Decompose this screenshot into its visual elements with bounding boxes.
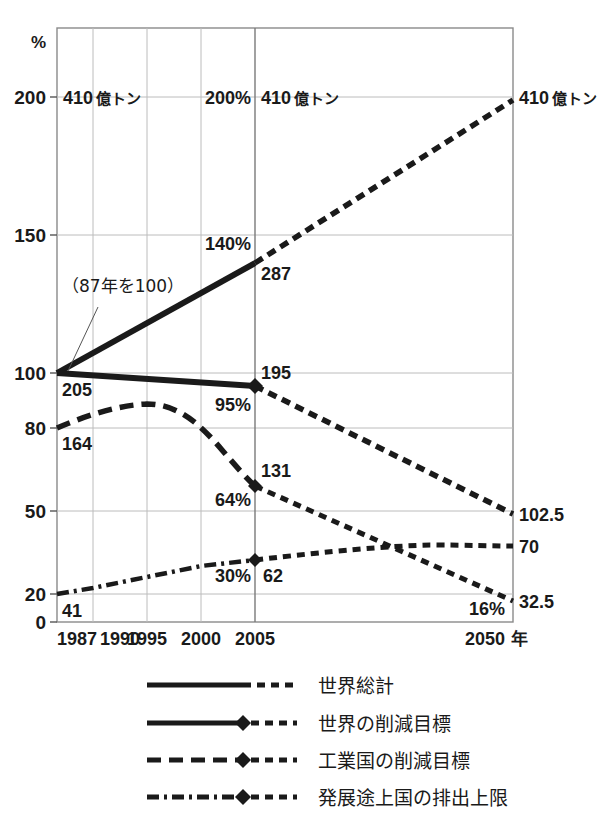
tonnage-right-value: 410	[519, 88, 549, 108]
tonnage-right-unit: 億トン	[552, 90, 597, 107]
legend-marker-world-target	[235, 715, 251, 731]
value-label-70: 70	[519, 537, 539, 557]
tonnage-mid-unit: 億トン	[294, 90, 339, 107]
legend-label-world-target: 世界の削減目標	[318, 713, 451, 735]
svg-text:410億トン: 410億トン	[519, 88, 597, 108]
value-label-287: 287	[261, 264, 291, 284]
tonnage-left-unit: 億トン	[96, 90, 141, 107]
legend-label-industrial: 工業国の削減目標	[318, 750, 470, 772]
tonnage-mid-value: 410	[261, 88, 291, 108]
xtick-label-1987: 1987	[57, 629, 97, 649]
tonnage-label-mid: 410億トン	[261, 88, 339, 108]
value-label-41: 41	[62, 601, 82, 621]
svg-text:410億トン: 410億トン	[63, 88, 141, 108]
xtick-label-1995: 1995	[127, 629, 167, 649]
ytick-label-100: 100	[14, 363, 46, 384]
chart-svg: % 200 150 100 80 50 20 0 1987 1990 1995 …	[0, 0, 611, 815]
series-world-total-dotted	[255, 100, 513, 263]
series-industrial-dotted	[255, 486, 513, 601]
value-label-32-5: 32.5	[519, 592, 554, 612]
ytick-label-150: 150	[14, 225, 46, 246]
ytick-label-0: 0	[35, 612, 46, 633]
pct-label-95: 95%	[215, 395, 251, 415]
value-label-205: 205	[62, 380, 92, 400]
pct-label-140: 140%	[205, 234, 251, 254]
legend-item-world-target[interactable]: 世界の削減目標	[147, 713, 451, 735]
xtick-label-2050: 2050	[465, 629, 505, 649]
legend-item-developing[interactable]: 発展途上国の排出上限	[147, 787, 508, 809]
marker-developing-2005	[248, 553, 262, 567]
svg-text:410億トン: 410億トン	[261, 88, 339, 108]
plot-frame	[57, 28, 513, 622]
value-label-195: 195	[261, 363, 291, 383]
value-label-62: 62	[263, 566, 283, 586]
emissions-line-chart: % 200 150 100 80 50 20 0 1987 1990 1995 …	[0, 0, 611, 815]
legend-item-world-total[interactable]: 世界総計	[147, 675, 394, 697]
legend-label-developing: 発展途上国の排出上限	[318, 787, 508, 809]
value-label-131: 131	[261, 461, 291, 481]
tonnage-label-right: 410億トン	[519, 88, 597, 108]
pct-200-mid-label: 200%	[205, 88, 251, 108]
legend-marker-developing	[235, 789, 251, 805]
tonnage-label-left: 410億トン	[63, 88, 141, 108]
legend-item-industrial[interactable]: 工業国の削減目標	[147, 750, 470, 772]
pct-label-30: 30%	[215, 566, 251, 586]
tonnage-left-value: 410	[63, 88, 93, 108]
ytick-label-80: 80	[25, 418, 46, 439]
series-world-target-dotted	[255, 386, 513, 514]
pct-label-16: 16%	[469, 599, 505, 619]
x-axis-unit: 年	[511, 629, 528, 649]
baseline-note: （87年を100）	[62, 276, 184, 296]
y-axis-unit: %	[31, 33, 46, 52]
value-label-164: 164	[62, 434, 92, 454]
legend-label-world-total: 世界総計	[318, 675, 394, 697]
xtick-label-2000: 2000	[181, 629, 221, 649]
ytick-label-20: 20	[25, 584, 46, 605]
xtick-label-2005: 2005	[235, 629, 275, 649]
series-developing-dotted	[255, 545, 513, 560]
pct-label-64: 64%	[215, 490, 251, 510]
legend: 世界総計 世界の削減目標 工業国の削減目標 発展途上国の排出上限	[147, 675, 508, 809]
ytick-label-200: 200	[14, 87, 46, 108]
legend-marker-industrial	[235, 752, 251, 768]
value-label-102-5: 102.5	[519, 505, 564, 525]
ytick-label-50: 50	[25, 501, 46, 522]
